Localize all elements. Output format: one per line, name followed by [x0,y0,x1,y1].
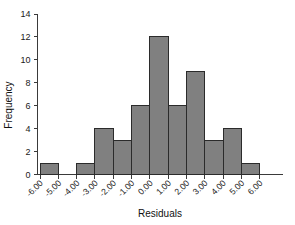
histogram-bar [77,163,95,174]
histogram-bar [40,163,58,174]
x-axis-title-group: Residuals [138,208,182,219]
y-tick-label: 12 [20,32,30,42]
y-tick-label: 4 [25,124,30,134]
histogram-bar [168,106,186,175]
histogram-bar [223,129,241,175]
histogram-bar [132,106,150,175]
x-axis-title: Residuals [138,208,182,219]
y-tick-label: 8 [25,78,30,88]
histogram-bar [150,37,168,175]
histogram-chart: Frequency 02468101214 -6.00-5.00-4.00-3.… [0,0,295,225]
y-tick-label: 14 [20,9,30,19]
y-tick-label: 2 [25,147,30,157]
histogram-bar [113,140,131,174]
histogram-bar [95,129,113,175]
y-tick-label: 10 [20,55,30,65]
y-axis-title: Frequency [3,81,14,128]
y-tick-label: 6 [25,101,30,111]
y-tick-label: 0 [25,170,30,180]
histogram-bar [186,71,204,174]
histogram-bar [205,140,223,174]
histogram-bar [241,163,259,174]
chart-canvas: Frequency 02468101214 -6.00-5.00-4.00-3.… [0,0,295,225]
y-axis-title-group: Frequency [3,81,14,128]
